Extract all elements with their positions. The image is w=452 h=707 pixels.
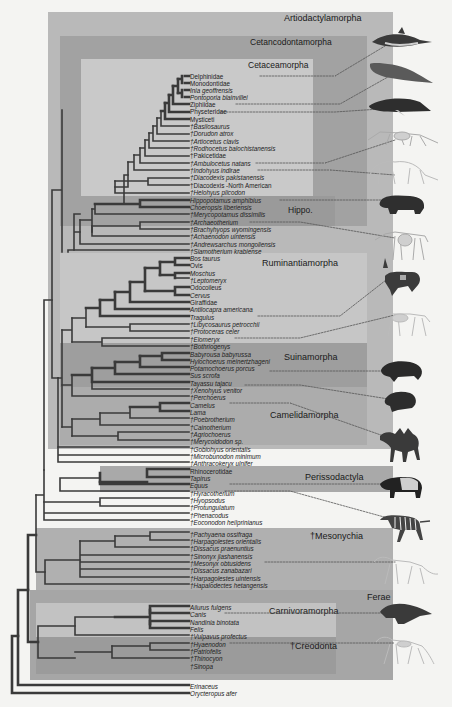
camel-icon (380, 428, 420, 462)
ambulocetus-skeleton-icon (368, 132, 438, 146)
hyaenodon-skeleton-icon (376, 637, 434, 664)
elomeryx-skeleton-icon (376, 314, 430, 336)
boar-icon (381, 361, 422, 382)
phylogeny-figure: Artiodactylamorpha Cetancodontamorpha Ce… (0, 0, 452, 707)
illustrations (0, 0, 452, 707)
zebra-icon (380, 515, 430, 542)
dolphin-icon (372, 27, 432, 47)
archaeotherium-skeleton-icon (375, 232, 428, 260)
mesonyx-skeleton-icon (374, 557, 438, 584)
sperm-whale-icon (370, 63, 433, 83)
peccary-icon (385, 392, 416, 412)
pronghorn-icon (383, 258, 420, 296)
hippopotamus-icon (380, 196, 425, 214)
wolf-icon (380, 604, 432, 624)
humpback-whale-icon (369, 99, 431, 116)
indohyus-skeleton-icon (370, 162, 438, 184)
tapir-icon (380, 477, 422, 498)
